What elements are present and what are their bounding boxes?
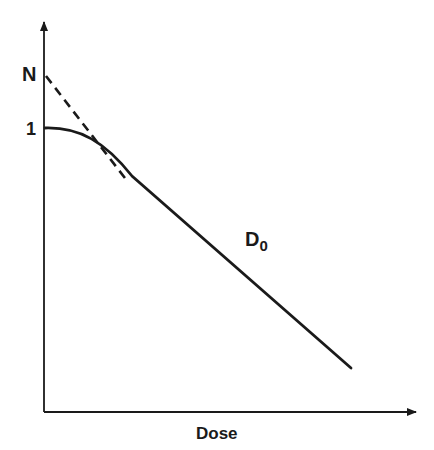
survival-curve-diagram: N 1 D0 Dose — [0, 0, 434, 450]
d0-main: D — [245, 228, 259, 250]
survival-curve — [45, 128, 351, 368]
x-axis-label: Dose — [196, 424, 238, 443]
one-label: 1 — [26, 119, 36, 139]
n-label: N — [22, 63, 36, 85]
d0-label: D0 — [245, 228, 268, 254]
d0-subscript: 0 — [259, 237, 267, 254]
